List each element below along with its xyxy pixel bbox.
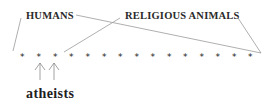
star-icon: * (37, 52, 42, 62)
star-icon: * (20, 52, 25, 62)
star-row: * * * * * * * * * * * * * * * (20, 52, 253, 62)
star-icon: * (216, 52, 221, 62)
star-icon: * (118, 52, 123, 62)
religious-right-line (238, 18, 261, 53)
star-icon: * (135, 52, 140, 62)
star-icon: * (53, 52, 58, 62)
star-icon: * (232, 52, 237, 62)
humans-left-line (13, 18, 21, 51)
religious-left-line (64, 18, 120, 52)
star-icon: * (69, 52, 74, 62)
star-icon: * (86, 52, 91, 62)
star-icon: * (151, 52, 156, 62)
religious-animals-label: RELIGIOUS ANIMALS (125, 10, 240, 21)
diagram-canvas: HUMANS RELIGIOUS ANIMALS * * * * * * * *… (0, 0, 277, 105)
star-icon: * (102, 52, 107, 62)
star-icon: * (200, 52, 205, 62)
humans-label: HUMANS (26, 10, 74, 21)
atheists-label: atheists (26, 86, 74, 101)
star-icon: * (248, 52, 253, 62)
arrow-up-icon (35, 63, 45, 80)
arrow-up-icon (49, 63, 59, 80)
star-icon: * (183, 52, 188, 62)
star-icon: * (167, 52, 172, 62)
